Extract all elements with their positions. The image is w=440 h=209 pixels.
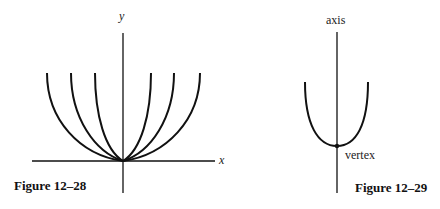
fig28-curve-right-narrow	[123, 73, 151, 161]
fig29-axis-label: axis	[326, 13, 345, 28]
fig28-curve-right-mid	[123, 73, 174, 161]
fig28-curve-left-mid	[71, 73, 123, 161]
fig29-vertex-dot	[335, 144, 339, 148]
fig28-y-label: y	[119, 9, 124, 24]
fig29-vertex-label: vertex	[345, 148, 375, 163]
figure-page: y x Figure 12–28 axis vertex Figure 12–2…	[0, 0, 440, 209]
fig28-x-label: x	[219, 153, 224, 168]
fig28-axes	[32, 33, 215, 193]
fig28-caption: Figure 12–28	[14, 178, 86, 194]
fig29-caption: Figure 12–29	[355, 180, 427, 196]
